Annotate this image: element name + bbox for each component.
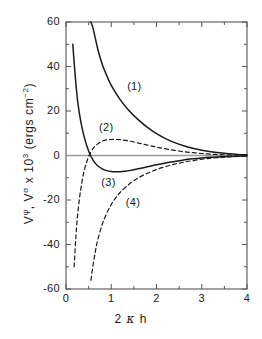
y-title-v-psi: V xyxy=(22,216,36,225)
x-tick-label: 2 xyxy=(142,292,172,304)
x-title-coefficient: 2 xyxy=(115,312,127,326)
exponent-three: 3 xyxy=(21,153,30,158)
y-title-units: (ergs cm xyxy=(22,98,36,153)
y-axis-title: Vψ, Vσ x 103 (ergs cm−2) xyxy=(21,4,36,304)
units-exponent: −2 xyxy=(21,87,30,97)
curve-2 xyxy=(74,139,247,266)
curve-label-4: (4) xyxy=(126,196,140,208)
figure-container: 6040200-20-40-60 01234 (1)(2)(3)(4) 2 κ … xyxy=(0,0,262,339)
x-tick-label: 3 xyxy=(187,292,217,304)
x-tick-label: 4 xyxy=(232,292,262,304)
y-title-multiplier: x 10 xyxy=(22,158,36,187)
curve-label-3: (3) xyxy=(101,176,115,188)
curve-label-1: (1) xyxy=(127,80,141,92)
y-title-close-paren: ) xyxy=(22,83,36,88)
data-curves xyxy=(73,22,247,280)
y-title-separator: , xyxy=(22,201,36,209)
curve-4 xyxy=(91,156,247,280)
sigma-superscript: σ xyxy=(21,187,30,193)
y-title-v-sigma: V xyxy=(22,193,36,202)
x-tick-label: 1 xyxy=(96,292,126,304)
x-title-h: h xyxy=(135,312,147,326)
x-axis-title: 2 κ h xyxy=(0,312,262,326)
curve-label-2: (2) xyxy=(99,121,113,133)
curve-1 xyxy=(91,22,247,155)
psi-superscript: ψ xyxy=(21,209,30,215)
x-tick-label: 0 xyxy=(51,292,81,304)
